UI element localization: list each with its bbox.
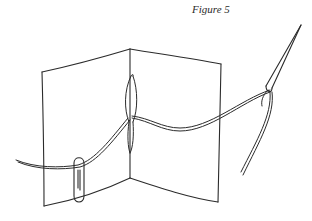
folded-paper-signature bbox=[42, 49, 221, 206]
bookbinding-drawing bbox=[0, 0, 312, 221]
thread bbox=[16, 90, 272, 175]
needle-icon bbox=[266, 25, 301, 92]
fold-stitch-loop bbox=[125, 75, 136, 154]
figure-5-illustration: Figure 5 bbox=[0, 0, 312, 221]
